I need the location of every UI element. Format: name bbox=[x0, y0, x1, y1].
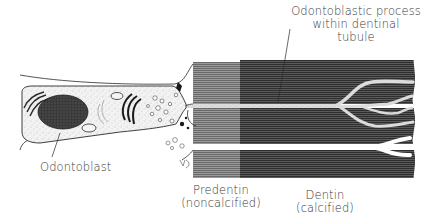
mitochondrion bbox=[82, 124, 96, 132]
dentin-label-line2: (calcified) bbox=[290, 202, 360, 215]
predentin-bottom bbox=[193, 150, 241, 178]
predentin-top bbox=[193, 62, 241, 104]
dentin-bottom bbox=[240, 150, 415, 178]
extracellular-vesicles bbox=[166, 138, 184, 150]
dentin-layer bbox=[193, 60, 417, 178]
label-odontoblastic-process: Odontoblastic process within dentinal tu… bbox=[286, 5, 426, 44]
odontoblast-label: Odontoblast bbox=[40, 160, 111, 174]
odontoblast-cell bbox=[22, 82, 189, 168]
process-label-line3: tubule bbox=[286, 31, 426, 44]
label-odontoblast: Odontoblast bbox=[40, 161, 111, 174]
predentin-middle bbox=[193, 108, 241, 144]
mitochondrion bbox=[111, 93, 123, 100]
predentin-label-line2: (noncalcified) bbox=[176, 197, 266, 210]
label-dentin: Dentin (calcified) bbox=[290, 189, 360, 215]
label-predentin: Predentin (noncalcified) bbox=[176, 184, 266, 210]
